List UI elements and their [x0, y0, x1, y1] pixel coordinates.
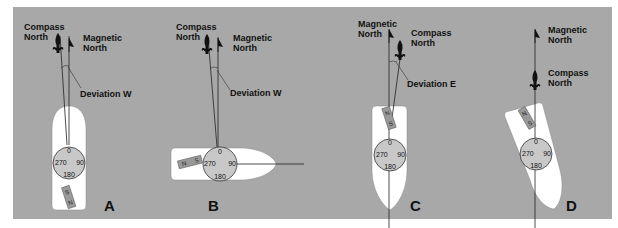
magnetic-north-flag-b — [218, 38, 223, 52]
svg-text:North: North — [548, 78, 572, 88]
panel-b: Compass North Magnetic North Deviation W… — [171, 22, 304, 214]
panel-label-d: D — [566, 197, 577, 214]
deviation-diagram: Compass North Magnetic North Deviation W… — [0, 0, 618, 228]
svg-text:0: 0 — [388, 139, 392, 146]
svg-text:North: North — [176, 32, 200, 42]
svg-text:180: 180 — [530, 162, 542, 169]
compass-north-symbol-a — [53, 33, 64, 53]
compass-north-symbol-b — [202, 34, 213, 54]
magnetic-north-flag-d — [535, 29, 540, 43]
panel-label-a: A — [104, 197, 115, 214]
svg-text:North: North — [358, 29, 382, 39]
svg-text:0: 0 — [534, 138, 538, 145]
magnetic-north-flag-a — [69, 38, 74, 52]
svg-text:270: 270 — [522, 150, 534, 157]
svg-text:North: North — [83, 43, 107, 53]
svg-text:0: 0 — [218, 148, 222, 155]
svg-text:North: North — [411, 38, 435, 48]
svg-text:North: North — [548, 35, 572, 45]
panel-label-b: B — [208, 197, 219, 214]
svg-text:90: 90 — [76, 159, 84, 166]
compass-north-label-d: Compass — [548, 68, 589, 78]
svg-text:90: 90 — [228, 160, 236, 167]
panel-label-c: C — [410, 197, 421, 214]
svg-text:270: 270 — [204, 160, 216, 167]
compass-north-label-c: Compass — [411, 28, 452, 38]
magnetic-north-label-a: Magnetic — [83, 33, 122, 43]
svg-text:270: 270 — [55, 159, 67, 166]
svg-text:North: North — [24, 32, 48, 42]
svg-text:North: North — [233, 43, 257, 53]
panel-a: Compass North Magnetic North Deviation W… — [24, 22, 132, 214]
compass-north-label-a: Compass — [24, 22, 65, 32]
panel-c: Magnetic North Compass North Deviation E… — [358, 19, 456, 228]
magnetic-north-label-c: Magnetic — [358, 19, 397, 29]
svg-text:180: 180 — [214, 173, 226, 180]
svg-text:180: 180 — [63, 171, 75, 178]
deviation-label-b: Deviation W — [230, 88, 282, 98]
magnetic-north-flag-c — [389, 29, 394, 43]
svg-text:180: 180 — [384, 163, 396, 170]
panel-d: Magnetic North Compass North N S 0 90 18… — [505, 25, 589, 228]
compass-north-symbol-c — [395, 40, 406, 60]
deviation-label-a: Deviation W — [80, 89, 132, 99]
svg-text:90: 90 — [397, 151, 405, 158]
svg-text:90: 90 — [543, 150, 551, 157]
compass-north-label-b: Compass — [176, 22, 217, 32]
svg-text:270: 270 — [376, 151, 388, 158]
svg-text:0: 0 — [67, 147, 71, 154]
compass-north-symbol-d — [530, 70, 541, 90]
magnetic-north-label-b: Magnetic — [233, 33, 272, 43]
deviation-label-c: Deviation E — [407, 79, 456, 89]
magnetic-north-label-d: Magnetic — [548, 25, 587, 35]
